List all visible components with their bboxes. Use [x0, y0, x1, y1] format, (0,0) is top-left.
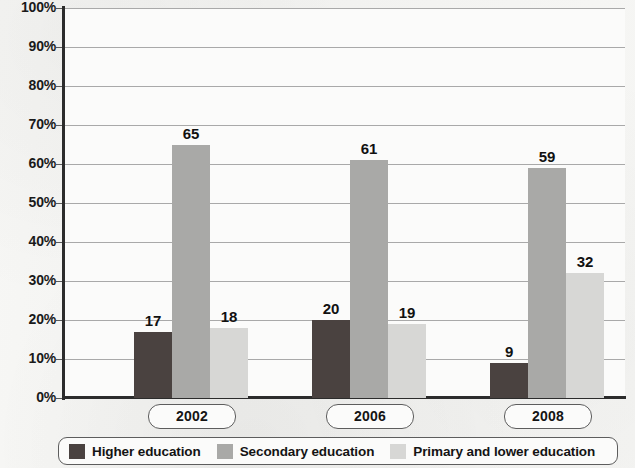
x-axis-category-2006: 2006 [326, 404, 414, 429]
bar-value-label: 65 [172, 125, 210, 142]
y-axis-tick-label: 30% [0, 272, 56, 288]
y-axis-tick-label: 80% [0, 77, 56, 93]
bar-value-label: 19 [388, 304, 426, 321]
y-axis-tick-label: 50% [0, 194, 56, 210]
bar-fill [528, 168, 566, 398]
bar-value-label: 9 [490, 343, 528, 360]
bar-value-label: 61 [350, 140, 388, 157]
y-axis-tick-label: 20% [0, 311, 56, 327]
y-axis-tick-label: 0% [0, 389, 56, 405]
bar-fill [134, 332, 172, 398]
legend-swatch-icon [217, 444, 233, 459]
bar-fill [566, 273, 604, 398]
bar-fill [490, 363, 528, 398]
bar [350, 160, 388, 398]
legend-item: Higher education [69, 444, 201, 459]
legend-item: Secondary education [217, 444, 375, 459]
x-axis-category-2002: 2002 [148, 404, 236, 429]
bar-group: 95932 [490, 8, 604, 398]
bar-value-label: 18 [210, 308, 248, 325]
y-axis-tick-label: 100% [0, 0, 56, 15]
bar [388, 324, 426, 398]
y-axis-tick-label: 60% [0, 155, 56, 171]
legend-label: Higher education [92, 444, 201, 459]
bar [210, 328, 248, 398]
x-axis-category-2008: 2008 [504, 404, 592, 429]
y-axis-tick-label: 70% [0, 116, 56, 132]
bar-value-label: 20 [312, 300, 350, 317]
y-axis-tick-label: 90% [0, 38, 56, 54]
bar [566, 273, 604, 398]
bar-value-label: 32 [566, 253, 604, 270]
bar [134, 332, 172, 398]
legend-swatch-icon [390, 444, 406, 459]
y-axis-tick-label: 40% [0, 233, 56, 249]
bar [172, 145, 210, 399]
chart-legend: Higher educationSecondary educationPrima… [58, 437, 618, 465]
bar-fill [312, 320, 350, 398]
bar-fill [172, 145, 210, 399]
bar-group: 206119 [312, 8, 426, 398]
y-axis-labels: 0%10%20%30%40%50%60%70%80%90%100% [0, 0, 58, 468]
bar-chart: 0%10%20%30%40%50%60%70%80%90%100% 176518… [0, 0, 635, 468]
bar-value-label: 59 [528, 148, 566, 165]
legend-item: Primary and lower education [390, 444, 595, 459]
legend-swatch-icon [69, 444, 85, 459]
bar-fill [388, 324, 426, 398]
bar [312, 320, 350, 398]
bar-value-label: 17 [134, 312, 172, 329]
bar [490, 363, 528, 398]
bar-fill [210, 328, 248, 398]
bar [528, 168, 566, 398]
legend-label: Secondary education [240, 444, 375, 459]
bar-group: 176518 [134, 8, 248, 398]
legend-label: Primary and lower education [413, 444, 595, 459]
bars-layer: 17651820611995932 [62, 8, 625, 398]
y-axis-tick-label: 10% [0, 350, 56, 366]
x-axis-category-labels: 200220062008 [62, 401, 625, 429]
bar-fill [350, 160, 388, 398]
